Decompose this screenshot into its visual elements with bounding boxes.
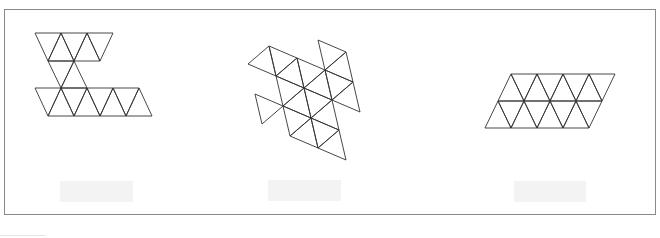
triangle-face <box>537 74 563 101</box>
triangle-face <box>126 88 152 116</box>
triangle-face <box>61 61 87 88</box>
caption-b <box>268 180 341 201</box>
caption-c <box>514 181 586 202</box>
triangle-face <box>276 58 304 88</box>
triangle-face <box>113 88 139 116</box>
triangle-face <box>276 76 304 106</box>
triangle-nets-diagram <box>0 0 660 238</box>
triangle-face <box>550 74 576 101</box>
caption-c-text <box>514 181 586 202</box>
net-b <box>248 40 360 160</box>
triangle-face <box>524 74 550 101</box>
triangle-face <box>248 46 276 76</box>
triangle-face <box>297 58 325 88</box>
triangle-face <box>255 94 283 124</box>
triangle-face <box>576 101 602 128</box>
triangle-face <box>563 101 589 128</box>
triangle-face <box>48 33 74 61</box>
triangle-face <box>311 118 339 148</box>
triangle-face <box>35 33 61 61</box>
triangle-face <box>74 33 100 61</box>
caption-a-text <box>60 181 133 202</box>
caption-a <box>60 181 133 202</box>
net-a <box>35 33 152 116</box>
triangle-face <box>332 82 360 112</box>
triangle-face <box>318 130 346 160</box>
triangle-face <box>100 88 126 116</box>
triangle-face <box>325 52 353 82</box>
triangle-face <box>524 101 550 128</box>
triangle-face <box>311 100 339 130</box>
triangle-face <box>563 74 589 101</box>
triangle-face <box>283 106 311 136</box>
bottom-divider <box>0 235 46 236</box>
triangle-face <box>576 74 602 101</box>
triangle-face <box>511 74 537 101</box>
triangle-face <box>325 70 353 100</box>
triangle-face <box>61 33 87 61</box>
triangle-face <box>61 88 87 116</box>
triangle-face <box>589 74 615 101</box>
triangle-face <box>35 88 61 116</box>
triangle-face <box>304 70 332 100</box>
triangle-face <box>537 101 563 128</box>
triangle-face <box>48 88 74 116</box>
triangle-face <box>74 88 100 116</box>
triangle-face <box>48 61 74 88</box>
triangle-face <box>290 118 318 148</box>
triangle-face <box>318 40 346 70</box>
net-c <box>485 74 615 128</box>
triangle-face <box>283 88 311 118</box>
triangle-face <box>550 101 576 128</box>
caption-b-text <box>268 180 341 201</box>
triangle-face <box>87 88 113 116</box>
triangle-face <box>485 101 511 128</box>
triangle-face <box>304 88 332 118</box>
triangle-face <box>511 101 537 128</box>
triangle-face <box>498 74 524 101</box>
triangle-face <box>87 33 113 61</box>
triangle-face <box>498 101 524 128</box>
triangle-face <box>269 46 297 76</box>
